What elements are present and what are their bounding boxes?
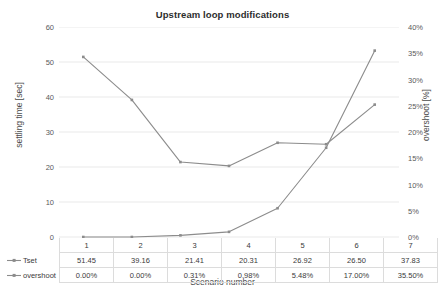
table-row: Tset51.4539.1621.4120.3126.9226.5037.83 — [4, 253, 438, 268]
data-point-marker — [228, 231, 231, 234]
table-cell: 0.00% — [114, 268, 168, 283]
table-row-categories: 1234567 — [4, 238, 438, 253]
category-label: 7 — [384, 238, 438, 253]
legend-label: Tset — [23, 255, 37, 266]
table-cell: 20.31 — [222, 253, 276, 268]
y-tick-label-left: 50 — [30, 58, 54, 67]
category-label: 3 — [168, 238, 222, 253]
table-cell: 5.48% — [276, 268, 330, 283]
data-point-marker — [179, 234, 182, 237]
y-tick-label-left: 40 — [30, 93, 54, 102]
category-label: 1 — [60, 238, 114, 253]
legend-label: overshoot — [23, 270, 56, 281]
data-point-marker — [82, 56, 85, 59]
y-tick-label-right: 15% — [408, 154, 434, 163]
table-cell: 51.45 — [60, 253, 114, 268]
table-cell: 0.31% — [168, 268, 222, 283]
y-tick-label-left: 20 — [30, 163, 54, 172]
series-line — [83, 57, 374, 166]
data-point-marker — [228, 165, 231, 168]
table-cell: 21.41 — [168, 253, 222, 268]
category-label: 6 — [330, 238, 384, 253]
data-point-marker — [276, 141, 279, 144]
table-cell: 35.50% — [384, 268, 438, 283]
table-cell: 26.92 — [276, 253, 330, 268]
data-point-marker — [373, 103, 376, 106]
y-axis-title-left: settling time [sec] — [14, 50, 24, 180]
data-point-marker — [325, 146, 328, 149]
series-tset — [82, 56, 376, 168]
legend-marker-icon — [7, 272, 21, 279]
data-table: 1234567Tset51.4539.1621.4120.3126.9226.5… — [4, 238, 438, 283]
plot-svg — [59, 27, 399, 238]
legend-item-overshoot[interactable]: overshoot — [4, 268, 60, 283]
table-cell: 17.00% — [330, 268, 384, 283]
y-tick-label-right: 25% — [408, 101, 434, 110]
table-corner-cell — [4, 238, 60, 253]
data-point-marker — [131, 99, 134, 102]
chart-title: Upstream loop modifications — [0, 9, 445, 20]
y-tick-label-left: 10 — [30, 198, 54, 207]
y-tick-label-right: 35% — [408, 49, 434, 58]
category-label: 2 — [114, 238, 168, 253]
series-line — [83, 51, 374, 237]
y-tick-label-right: 30% — [408, 75, 434, 84]
data-point-marker — [179, 161, 182, 164]
table-cell: 0.00% — [60, 268, 114, 283]
y-tick-label-right: 5% — [408, 206, 434, 215]
y-tick-label-right: 20% — [408, 128, 434, 137]
y-tick-label-right: 40% — [408, 23, 434, 32]
y-tick-label-left: 30 — [30, 128, 54, 137]
y-tick-label-right: 10% — [408, 180, 434, 189]
table-cell: 0.98% — [222, 268, 276, 283]
table-cell: 37.83 — [384, 253, 438, 268]
category-label: 5 — [276, 238, 330, 253]
plot-area — [59, 27, 399, 237]
data-point-marker — [373, 49, 376, 52]
y-tick-label-left: 60 — [30, 23, 54, 32]
category-label: 4 — [222, 238, 276, 253]
table-row: overshoot0.00%0.00%0.31%0.98%5.48%17.00%… — [4, 268, 438, 283]
table-cell: 39.16 — [114, 253, 168, 268]
series-overshoot — [82, 49, 376, 238]
data-point-marker — [276, 207, 279, 210]
chart-container: Upstream loop modifications settling tim… — [0, 0, 445, 295]
legend-marker-icon — [7, 257, 21, 264]
legend-item-tset[interactable]: Tset — [4, 253, 60, 268]
table-cell: 26.50 — [330, 253, 384, 268]
gridlines — [59, 27, 399, 237]
